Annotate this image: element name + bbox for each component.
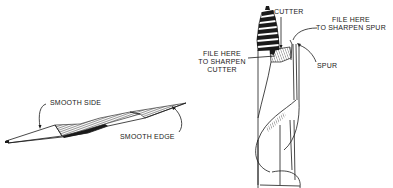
smooth-edge-leader — [174, 108, 182, 132]
file-spur-leader — [293, 28, 317, 40]
label-spur: SPUR — [317, 62, 337, 70]
label-file-here-cutter-line3: CUTTER — [196, 66, 248, 74]
label-file-here-cutter: FILE HERE TO SHARPEN CUTTER — [196, 50, 248, 74]
smooth-side-leader — [39, 104, 46, 127]
spur-leader — [299, 45, 316, 62]
twist-spiral-outer — [256, 100, 296, 172]
diagram-canvas: SMOOTH SIDE SMOOTH EDGE CUTTER FILE HERE… — [0, 0, 393, 188]
label-cutter: CUTTER — [274, 8, 304, 16]
auger-bit-illustration — [248, 6, 317, 188]
label-file-here-spur-line2: TO SHARPEN SPUR — [316, 24, 386, 32]
label-file-here-cutter-line2: TO SHARPEN — [196, 58, 248, 66]
label-smooth-edge: SMOOTH EDGE — [120, 133, 175, 141]
label-file-here-cutter-line1: FILE HERE — [196, 50, 248, 58]
twist-spiral-inner — [258, 62, 271, 118]
file-right-taper — [130, 103, 186, 118]
label-file-here-spur-line1: FILE HERE — [316, 16, 386, 24]
label-smooth-side: SMOOTH SIDE — [50, 99, 101, 107]
label-file-here-spur: FILE HERE TO SHARPEN SPUR — [316, 16, 386, 32]
